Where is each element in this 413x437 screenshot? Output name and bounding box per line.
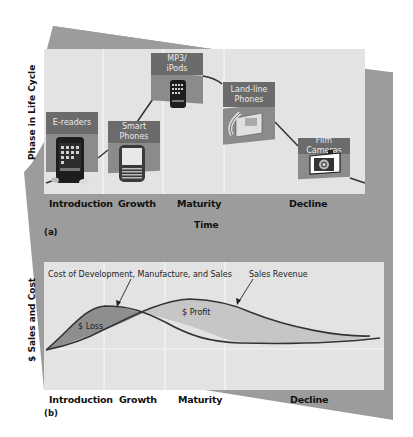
profit-region-label: $ Profit <box>182 308 211 317</box>
stage-growth-b: Growth <box>119 394 157 405</box>
stage-decline-b: Decline <box>290 394 328 405</box>
stage-introduction-b: Introduction <box>49 394 113 405</box>
revenue-curve-label: Sales Revenue <box>249 270 308 279</box>
panel-tag-b: (b) <box>44 408 58 418</box>
cost-curve-label: Cost of Development, Manufacture, and Sa… <box>48 270 232 279</box>
sales-cost-axis-label: $ Sales and Cost <box>27 278 37 362</box>
stage-maturity-b: Maturity <box>178 394 222 405</box>
loss-region-label: $ Loss <box>78 322 103 331</box>
sales-cost-chart <box>0 0 413 437</box>
